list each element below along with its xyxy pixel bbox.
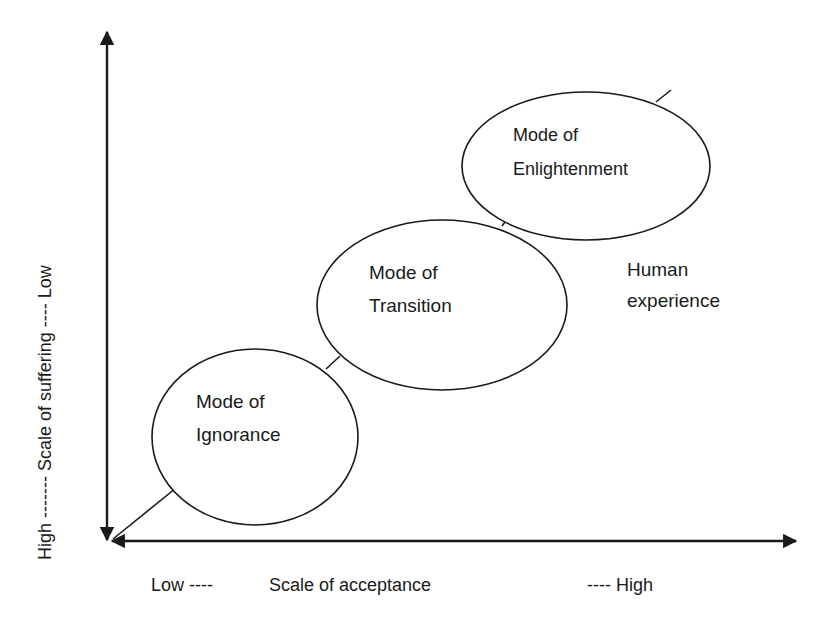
y-axis-label: High ------- Scale of suffering ---- Low xyxy=(35,264,55,560)
human-experience-label: Human experience xyxy=(627,259,720,311)
human-experience-line2: experience xyxy=(627,290,720,311)
node-enlightenment-line1: Mode of xyxy=(513,125,579,145)
node-ignorance-line2: Ignorance xyxy=(196,424,281,445)
diagram-canvas: Mode of Ignorance Mode of Transition Mod… xyxy=(0,0,820,630)
node-ignorance-line1: Mode of xyxy=(196,391,265,412)
node-transition: Mode of Transition xyxy=(317,220,567,390)
node-ignorance: Mode of Ignorance xyxy=(152,349,358,525)
node-enlightenment: Mode of Enlightenment xyxy=(462,92,710,240)
x-axis-label-low: Low ---- xyxy=(151,575,213,595)
node-transition-line2: Transition xyxy=(369,295,452,316)
path-segment-origin xyxy=(113,488,176,539)
x-axis-label-title: Scale of acceptance xyxy=(269,575,431,595)
path-segment-end xyxy=(656,90,671,102)
x-axis-label-high: ---- High xyxy=(587,575,653,595)
node-enlightenment-line2: Enlightenment xyxy=(513,159,628,179)
path-segment-ignorance-transition xyxy=(326,356,340,369)
human-experience-line1: Human xyxy=(627,259,688,280)
node-transition-line1: Mode of xyxy=(369,262,438,283)
